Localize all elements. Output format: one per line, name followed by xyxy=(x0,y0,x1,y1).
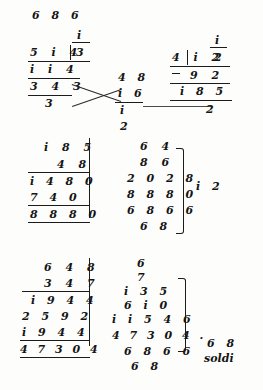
mult-bottom-rule-3 xyxy=(20,357,90,358)
division-right-rule-3 xyxy=(170,100,232,101)
manuscript-page: 6 8 6 i 5 i 4 3 i i 4 3 4 3 3 4 8 i 6 i … xyxy=(0,0,263,390)
mult-bottom-partial-2: 2 5 9 2 xyxy=(22,311,92,322)
mult-left-partial-1: i 4 8 0 xyxy=(30,176,97,187)
division-right-divisor-bar xyxy=(187,50,188,65)
column-middle-bracket xyxy=(176,148,184,234)
division-right-divisor: 2 xyxy=(214,52,222,63)
division-right-quotient-above: i xyxy=(215,35,220,46)
top-header-digits: 6 8 6 xyxy=(32,10,83,21)
division-right-quotient-rule xyxy=(210,47,227,48)
mult-bottom-product: 4 7 3 0 4 xyxy=(20,344,101,355)
column-bottom-row-0: 6 xyxy=(137,258,149,269)
division-left-quotient-rule xyxy=(72,42,90,43)
mult-bottom-partial-1: i 9 4 4 xyxy=(31,295,98,306)
division-left-quotient-above: i xyxy=(77,30,82,41)
mult-left-multiplier: 4 8 xyxy=(57,159,91,170)
mult-bottom-multiplicand: 6 4 8 xyxy=(44,262,100,273)
column-bottom-row-1: 7 xyxy=(137,272,149,283)
division-middle-line2: i 6 xyxy=(118,88,146,99)
division-left-divisor: 3 xyxy=(76,47,84,58)
division-left-rule-2 xyxy=(28,78,80,79)
column-middle-row-2: 2 0 2 8 xyxy=(127,173,197,184)
division-right-minus xyxy=(172,73,180,74)
division-middle-line4: 2 xyxy=(120,121,128,132)
column-bottom-bracket xyxy=(178,278,186,352)
division-left-divisor-bar xyxy=(70,45,71,60)
division-right-subtrahend: 9 2 xyxy=(190,70,224,81)
column-middle-row-0: 6 4 xyxy=(140,141,174,152)
mult-left-rule-1 xyxy=(28,172,90,173)
column-bottom-row-2: i 3 5 xyxy=(124,286,171,297)
column-middle-row-3: 8 8 8 0 xyxy=(127,189,197,200)
division-left-rule-1 xyxy=(28,61,90,62)
division-right-remainder: i 8 5 xyxy=(180,86,227,97)
mult-bottom-multiplier: 3 4 7 xyxy=(44,278,100,289)
division-middle-line1: 4 8 xyxy=(118,72,149,83)
mult-left-partial-2: 7 4 0 xyxy=(30,192,81,203)
column-middle-row-5: 6 8 xyxy=(140,221,171,232)
column-bottom-row-7: 6 8 xyxy=(131,361,162,372)
result-note-unit: soldi xyxy=(204,352,234,365)
division-right-rule-2 xyxy=(170,83,230,84)
connector-rule xyxy=(143,106,211,107)
mult-left-rule-3 xyxy=(28,222,90,223)
column-bottom-row-5: 4 7 3 0 4 . xyxy=(112,330,206,341)
column-middle-row-1: 8 6 xyxy=(140,157,174,168)
mult-left-rule-2 xyxy=(28,205,90,206)
division-left-rule-3 xyxy=(28,95,72,96)
column-middle-bracket-result: i 2 xyxy=(196,181,224,192)
mult-bottom-rule-1 xyxy=(22,291,90,292)
division-left-final: 3 xyxy=(45,98,53,109)
division-right-final: 2 xyxy=(206,104,214,115)
division-middle-line3: i xyxy=(120,105,125,116)
mult-left-product: 8 8 8 0 xyxy=(30,209,100,220)
division-left-subtrahend: i i 4 xyxy=(30,64,79,75)
result-note-value: 6 8 xyxy=(207,338,238,349)
mult-bottom-rule-2 xyxy=(20,340,90,341)
division-left-dividend: 5 i 4 xyxy=(30,47,82,58)
division-right-rule-1 xyxy=(170,66,230,67)
column-bottom-row-3: 6 i 0 xyxy=(124,300,171,311)
mult-bottom-partial-3: i 9 4 4 xyxy=(22,327,89,338)
division-middle-rule xyxy=(115,102,143,103)
column-middle-row-4: 6 8 6 6 xyxy=(127,205,197,216)
